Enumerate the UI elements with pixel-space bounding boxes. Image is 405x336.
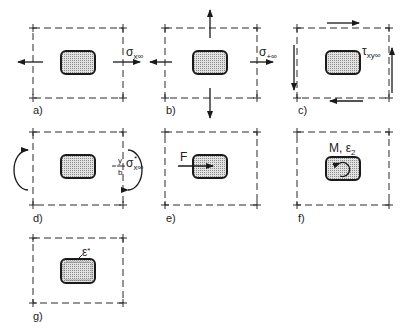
inclusion bbox=[61, 155, 95, 178]
panel-label: c) bbox=[298, 104, 307, 116]
eigenstrain-label: ε* bbox=[82, 245, 90, 259]
panel-label: a) bbox=[33, 104, 43, 116]
stress-label: σx∞ bbox=[126, 45, 143, 61]
moment-strain-label: M, ε2 bbox=[329, 141, 356, 157]
svg-text:b: b bbox=[118, 168, 123, 177]
svg-text:y: y bbox=[118, 156, 122, 165]
panel-label: d) bbox=[33, 212, 43, 224]
panel-b: σ+∞ b) bbox=[150, 10, 277, 118]
svg-text:*: * bbox=[134, 154, 137, 163]
panel-f: M, ε2 f) bbox=[293, 128, 393, 224]
panel-g: ε* g) bbox=[29, 234, 127, 322]
shear-stress-label: τxy∞ bbox=[362, 44, 381, 60]
inclusion bbox=[61, 259, 95, 283]
panel-label: e) bbox=[166, 212, 176, 224]
panel-c: τxy∞ c) bbox=[293, 23, 393, 116]
inclusion bbox=[193, 51, 227, 74]
panel-d: y b σx∞ * d) bbox=[14, 128, 143, 224]
force-label: F bbox=[180, 150, 187, 164]
inclusion bbox=[326, 51, 360, 74]
panel-a: σx∞ a) bbox=[18, 24, 143, 116]
moment-arrow-left-icon bbox=[14, 150, 28, 190]
panel-label: f) bbox=[298, 212, 305, 224]
panel-label: g) bbox=[33, 310, 43, 322]
stress-label: σ+∞ bbox=[259, 45, 277, 61]
panel-label: b) bbox=[166, 104, 176, 116]
panel-e: F e) bbox=[161, 128, 261, 224]
inclusion-loading-diagram: σx∞ a) σ+∞ b) τxy∞ c) bbox=[0, 0, 405, 336]
inclusion bbox=[61, 51, 95, 74]
